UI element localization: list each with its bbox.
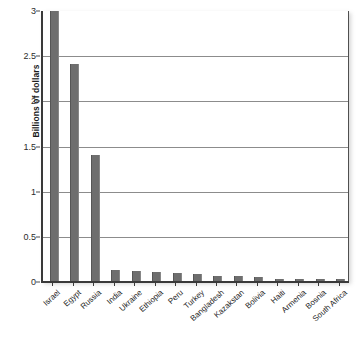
x-axis-category-labels: IsraelEgyptRussiaIndiaUkraineEthiopiaPer… (0, 0, 362, 344)
x-category-label: Russia (79, 288, 103, 311)
x-category-label: Bolivia (243, 288, 267, 310)
bar-chart-figure: Billions of dollars 00.511.522.53 Israel… (0, 0, 362, 344)
x-category-label: Israel (42, 288, 63, 308)
